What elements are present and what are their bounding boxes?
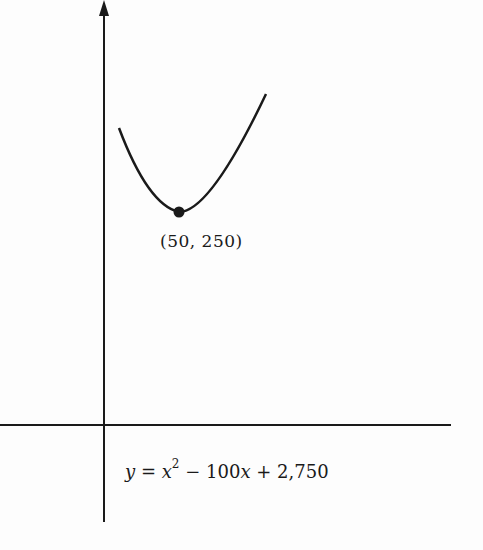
vertex-label: (50, 250): [160, 231, 243, 251]
equation-constant: + 2,750: [251, 461, 329, 482]
equation-x: x: [162, 461, 172, 482]
y-axis-arrow-icon: [99, 0, 109, 16]
equation-exponent: 2: [172, 457, 180, 471]
equation-x2: x: [240, 461, 250, 482]
equation-term: − 100: [180, 461, 241, 482]
equation-equals: =: [135, 461, 162, 482]
vertex-point: [174, 207, 185, 218]
equation-y: y: [125, 461, 135, 482]
parabola-curve: [119, 94, 266, 212]
equation-label: y = x2 − 100x + 2,750: [125, 460, 329, 482]
